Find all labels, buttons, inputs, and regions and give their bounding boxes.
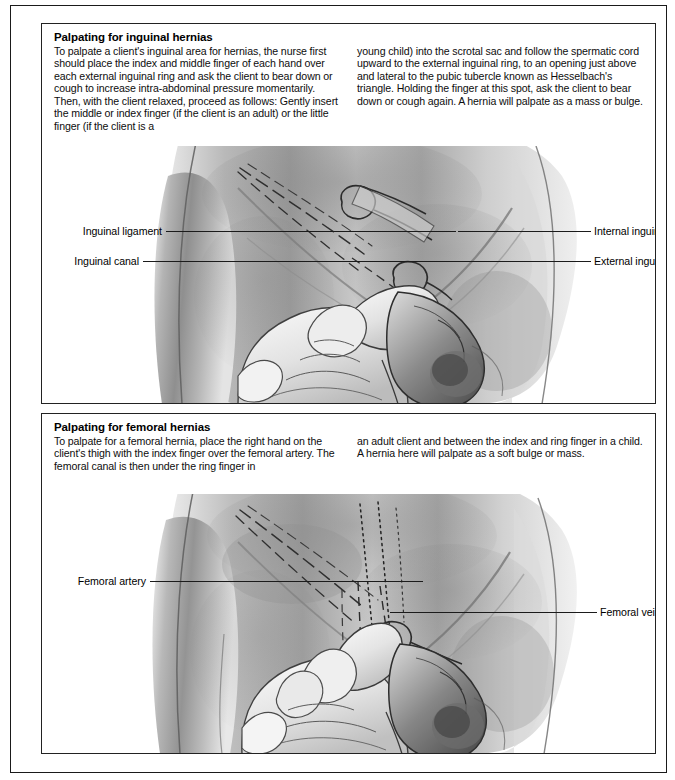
inguinal-column-right: young child) into the scrotal sac and fo…	[357, 45, 643, 132]
label-inguinal-canal: Inguinal canal	[58, 255, 139, 267]
leader-inguinal-canal	[143, 261, 471, 262]
femoral-anatomy-drawing	[42, 494, 655, 753]
inguinal-text-block: Palpating for inguinal hernias To palpat…	[42, 24, 655, 132]
inguinal-body-right: young child) into the scrotal sac and fo…	[357, 45, 643, 107]
leader-external-inguinal-ring	[440, 261, 591, 262]
leader-femoral-artery	[150, 581, 423, 582]
label-external-inguinal-ring: External inguinal ring	[594, 255, 656, 267]
inguinal-column-left: To palpate a client's inguinal area for …	[54, 45, 340, 132]
panel-femoral-hernias: Palpating for femoral hernias To palpate…	[41, 413, 656, 754]
inguinal-anatomy-drawing	[42, 146, 655, 403]
label-femoral-vein: Femoral vein	[600, 606, 656, 618]
femoral-columns: To palpate for a femoral hernia, place t…	[54, 435, 643, 472]
page-title-femoral: Palpating for femoral hernias	[54, 421, 643, 434]
label-inguinal-ligament: Inguinal ligament	[58, 225, 162, 237]
femoral-hernia-palpation-illustration	[42, 494, 655, 753]
leader-femoral-vein	[390, 612, 597, 613]
page-border: Palpating for inguinal hernias To palpat…	[10, 5, 667, 773]
femoral-body-right: an adult client and between the index an…	[357, 435, 643, 460]
femoral-body-left: To palpate for a femoral hernia, place t…	[54, 435, 340, 472]
inguinal-hernia-palpation-illustration	[42, 146, 655, 403]
femoral-text-block: Palpating for femoral hernias To palpate…	[42, 414, 655, 472]
label-internal-inguinal-ring: Internal inguinal ring	[594, 225, 656, 237]
inguinal-columns: To palpate a client's inguinal area for …	[54, 45, 643, 132]
leader-internal-inguinal-ring	[458, 231, 591, 232]
leader-inguinal-ligament	[166, 231, 456, 232]
panel-inguinal-hernias: Palpating for inguinal hernias To palpat…	[41, 23, 656, 404]
femoral-column-right: an adult client and between the index an…	[357, 435, 643, 472]
page-title-inguinal: Palpating for inguinal hernias	[54, 31, 643, 44]
femoral-column-left: To palpate for a femoral hernia, place t…	[54, 435, 340, 472]
label-femoral-artery: Femoral artery	[58, 575, 146, 587]
inguinal-body-left: To palpate a client's inguinal area for …	[54, 45, 340, 132]
